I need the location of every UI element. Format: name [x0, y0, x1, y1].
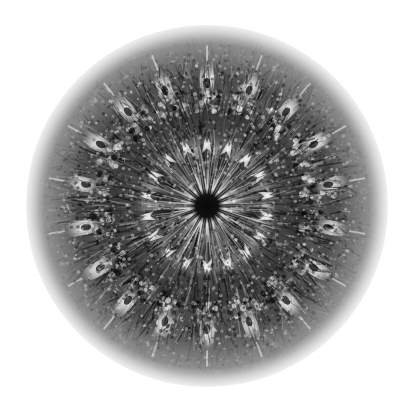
radial-mandala-artwork: [0, 0, 413, 417]
artwork-stage: [0, 0, 413, 417]
